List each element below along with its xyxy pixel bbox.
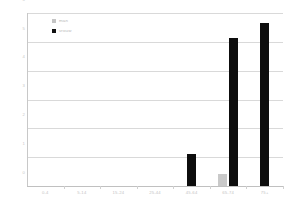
y-tick-label: 5	[3, 27, 25, 31]
x-axis-line	[27, 186, 283, 187]
y-tick-label: 2	[3, 113, 25, 117]
x-tick-mark	[64, 186, 65, 189]
x-tick-label: 15-24	[98, 191, 138, 195]
legend-item-vrouw: vrouw	[52, 27, 71, 35]
legend-label-man: man	[59, 19, 68, 23]
bar-vrouw-45-64	[187, 154, 196, 186]
x-tick-mark	[173, 186, 174, 189]
x-tick-label: 5-14	[62, 191, 102, 195]
gridline	[27, 71, 283, 72]
x-tick-mark	[283, 186, 284, 189]
y-tick-label: 0	[3, 171, 25, 175]
gridline	[27, 13, 283, 14]
x-tick-label: 25-44	[135, 191, 175, 195]
bar-man-65-74	[218, 174, 227, 186]
plot-area	[27, 13, 283, 186]
y-axis-ticks: 0123456	[0, 0, 25, 173]
bar-chart: 0123456 0-45-1415-2425-4445-6465-7475+ m…	[0, 0, 295, 211]
x-tick-label: 45-64	[172, 191, 212, 195]
gridline	[27, 42, 283, 43]
y-tick-label: 3	[3, 84, 25, 88]
x-tick-mark	[137, 186, 138, 189]
bar-vrouw-75+	[260, 23, 269, 186]
x-tick-mark	[100, 186, 101, 189]
legend-label-vrouw: vrouw	[59, 29, 71, 33]
legend-item-man: man	[52, 17, 71, 25]
y-axis-line	[27, 13, 28, 187]
gray-square-icon	[52, 19, 56, 23]
y-tick-label: 6	[3, 0, 25, 2]
gridline	[27, 128, 283, 129]
x-tick-mark	[210, 186, 211, 189]
chart-legend: man vrouw	[52, 17, 71, 37]
y-tick-label: 1	[3, 142, 25, 146]
x-tick-label: 65-74	[208, 191, 248, 195]
gridline	[27, 157, 283, 158]
black-square-icon	[52, 29, 56, 33]
gridline	[27, 100, 283, 101]
y-tick-label: 4	[3, 55, 25, 59]
bar-vrouw-65-74	[229, 38, 238, 186]
x-tick-mark	[246, 186, 247, 189]
x-tick-label: 0-4	[25, 191, 65, 195]
x-tick-label: 75+	[245, 191, 285, 195]
